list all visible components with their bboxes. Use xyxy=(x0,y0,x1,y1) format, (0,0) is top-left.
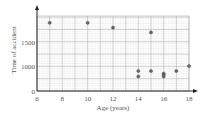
data-point xyxy=(149,69,152,72)
data-point xyxy=(162,75,165,78)
y-tick-label: 1500 xyxy=(21,39,36,47)
data-point xyxy=(86,21,89,24)
y-tick-label: 1000 xyxy=(21,63,36,71)
x-tick-label: 14 xyxy=(135,95,143,103)
x-tick-label: 6 xyxy=(35,95,39,103)
data-point xyxy=(175,69,178,72)
data-point xyxy=(187,64,190,67)
x-tick-label: 8 xyxy=(61,95,65,103)
x-tick-label: 18 xyxy=(186,95,194,103)
x-axis-label: Age (years) xyxy=(97,104,131,112)
x-tick-labels: 681012141618 xyxy=(35,95,193,103)
data-point xyxy=(149,31,152,34)
scatter-chart: 681012141618 010001500 Age (years) Time … xyxy=(0,0,200,114)
data-point xyxy=(137,69,140,72)
x-axis-arrow-icon xyxy=(193,89,198,93)
y-tick-label: 0 xyxy=(32,88,36,96)
x-tick-label: 10 xyxy=(84,95,92,103)
x-tick-label: 12 xyxy=(110,95,118,103)
data-point xyxy=(111,26,114,29)
y-tick-labels: 010001500 xyxy=(21,39,36,96)
y-axis-arrow-icon xyxy=(35,5,39,10)
data-point xyxy=(48,21,51,24)
x-tick-label: 16 xyxy=(160,95,168,103)
y-axis-label: Time of accident xyxy=(10,26,18,73)
data-point xyxy=(137,75,140,78)
